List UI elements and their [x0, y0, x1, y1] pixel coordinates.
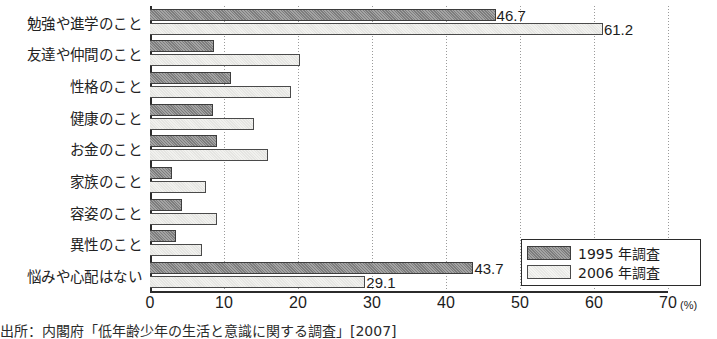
x-tick-0: 0	[146, 294, 155, 312]
x-tick-70: 70	[659, 294, 677, 312]
bar-group	[150, 196, 217, 228]
chart-row: 勉強や進学のこと46.761.2	[0, 6, 717, 38]
source-caption: 出所：内閣府「低年齢少年の生活と意識に関する調査」[2007]	[0, 320, 717, 339]
legend-item: 1995 年調査	[527, 243, 695, 262]
category-label: 容姿のこと	[0, 201, 142, 222]
bar-2006	[150, 118, 254, 130]
chart-row: 家族のこと	[0, 164, 717, 196]
category-label: 異性のこと	[0, 233, 142, 254]
bar-2006	[150, 149, 268, 161]
bar-1995	[150, 230, 176, 242]
bar-1995	[150, 72, 231, 84]
x-axis-line	[150, 291, 668, 293]
chart-row: 友達や仲間のこと	[0, 38, 717, 70]
x-tick-10: 10	[215, 294, 233, 312]
category-label: 友達や仲間のこと	[0, 43, 142, 64]
chart-row: 容姿のこと	[0, 196, 717, 228]
bar-group	[150, 228, 202, 260]
bar-2006	[150, 54, 300, 66]
bar-2006	[150, 86, 291, 98]
bar-group	[150, 133, 268, 165]
x-tick-60: 60	[585, 294, 603, 312]
bar-1995	[150, 199, 182, 211]
category-label: 勉強や進学のこと	[0, 11, 142, 32]
category-label: 家族のこと	[0, 170, 142, 191]
x-tick-20: 20	[289, 294, 307, 312]
chart-legend: 1995 年調査 2006 年調査	[521, 239, 701, 286]
bar-group	[150, 101, 254, 133]
chart-row: お金のこと	[0, 133, 717, 165]
legend-label-1995: 1995 年調査	[578, 243, 660, 263]
bar-1995	[150, 104, 213, 116]
bar-group	[150, 69, 291, 101]
legend-label-2006: 2006 年調査	[578, 262, 660, 282]
bar-value-label: 46.7	[497, 6, 526, 23]
bar-2006	[150, 181, 206, 193]
x-tick-40: 40	[437, 294, 455, 312]
bar-value-label: 29.1	[366, 274, 395, 291]
category-label: 性格のこと	[0, 75, 142, 96]
bar-1995	[150, 135, 217, 147]
bar-group	[150, 164, 206, 196]
legend-item: 2006 年調査	[527, 262, 695, 281]
category-label: お金のこと	[0, 138, 142, 159]
bar-group: 46.761.2	[150, 6, 603, 38]
bar-2006: 29.1	[150, 276, 365, 288]
legend-swatch-1995-icon	[527, 246, 571, 260]
category-label: 健康のこと	[0, 106, 142, 127]
bar-2006	[150, 213, 217, 225]
bar-2006: 61.2	[150, 23, 603, 35]
chart-figure: 勉強や進学のこと46.761.2友達や仲間のこと性格のこと健康のことお金のこと家…	[0, 0, 717, 339]
bar-1995	[150, 40, 214, 52]
bar-2006	[150, 244, 202, 256]
category-label: 悩みや心配はない	[0, 265, 142, 286]
x-axis-unit-label: (%)	[680, 299, 697, 311]
bar-value-label: 61.2	[604, 20, 633, 37]
legend-swatch-2006-icon	[527, 265, 571, 279]
x-tick-30: 30	[363, 294, 381, 312]
bar-value-label: 43.7	[474, 260, 503, 277]
chart-row: 性格のこと	[0, 69, 717, 101]
chart-row: 健康のこと	[0, 101, 717, 133]
bar-1995	[150, 167, 172, 179]
bar-group: 43.729.1	[150, 259, 473, 291]
bar-group	[150, 38, 300, 70]
x-tick-50: 50	[511, 294, 529, 312]
x-axis-tick-labels: 010203040506070(%)	[0, 294, 717, 316]
bar-1995: 43.7	[150, 262, 473, 274]
bar-1995: 46.7	[150, 9, 496, 21]
